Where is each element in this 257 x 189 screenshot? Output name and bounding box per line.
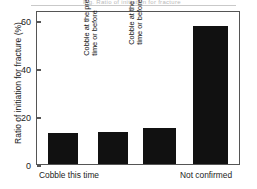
y-tick-mark-40: [37, 69, 41, 70]
bar-not-confirmed: [193, 26, 228, 164]
bar-cobble-previous-or-before-estimated: [143, 128, 176, 164]
annotation-line-2: time or before: [92, 0, 100, 56]
y-axis-title: Ratio of initiation for fracture (%): [13, 8, 23, 158]
plot-area: 0 20 40 60 Cobble at the previous time o…: [36, 11, 240, 165]
y-tick-mark-20: [37, 117, 41, 118]
bar-chart-figure: Fig. Ratio of initiation for fracture Ra…: [0, 0, 257, 189]
annotation-cobble-previous-or-before: Cobble at the previous time or before: [83, 0, 100, 56]
y-tick-label-60: 60: [9, 16, 31, 28]
bar-cobble-this-time: [48, 133, 78, 164]
y-tick-label-20: 20: [9, 112, 31, 124]
x-axis-label-cobble-this-time: Cobble this time: [14, 170, 124, 181]
y-tick-mark-60: [37, 21, 41, 22]
y-tick-mark-0: [37, 165, 41, 166]
annotation-line-2: time or before (estimated): [137, 0, 145, 45]
annotation-cobble-previous-or-before-estimated: Cobble at the previous time or before (e…: [128, 0, 145, 45]
x-axis-label-not-confirmed: Not confirmed: [158, 170, 254, 181]
bar-cobble-previous-or-before: [98, 132, 128, 164]
y-tick-label-40: 40: [9, 64, 31, 76]
